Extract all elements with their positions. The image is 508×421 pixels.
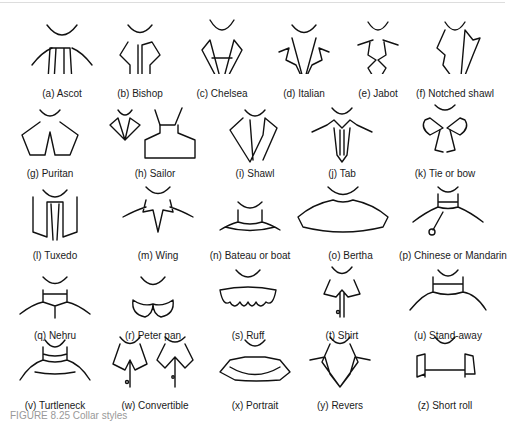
- collar-convertible: (w) Convertible: [105, 332, 205, 412]
- short-roll-illustration: [395, 332, 495, 396]
- collar-label: (p) Chinese or Mandarin: [398, 250, 508, 261]
- collar-shawl: (i) Shawl: [205, 100, 305, 180]
- collar-label: (z) Short roll: [395, 400, 495, 411]
- collar-label: (k) Tie or bow: [395, 168, 495, 179]
- collar-label: (y) Revers: [290, 400, 390, 411]
- collar-sailor: (h) Sailor: [100, 100, 210, 180]
- peter-pan-illustration: [103, 262, 203, 326]
- collar-label: (i) Shawl: [205, 168, 305, 179]
- collar-tab: (j) Tab: [292, 100, 392, 180]
- collar-revers: (y) Revers: [290, 332, 390, 412]
- collar-shirt: (t) Shirt: [292, 262, 392, 342]
- collar-bateau: (n) Bateau or boat: [200, 182, 300, 262]
- revers-illustration: [290, 332, 390, 396]
- figure-caption: FIGURE 8.25 Collar styles: [10, 410, 127, 421]
- collar-label: (n) Bateau or boat: [200, 250, 300, 261]
- collar-puritan: (g) Puritan: [0, 100, 100, 180]
- tie-or-bow-illustration: [395, 100, 495, 164]
- stand-away-illustration: [398, 262, 498, 326]
- puritan-illustration: [0, 100, 100, 164]
- tuxedo-illustration: [5, 182, 105, 246]
- turtleneck-illustration: [5, 332, 105, 396]
- convertible-illustration: [105, 332, 205, 396]
- collar-notched-shawl: (f) Notched shawl: [405, 10, 505, 90]
- tab-illustration: [292, 100, 392, 164]
- mandarin-illustration: [398, 182, 498, 246]
- collar-label: (m) Wing: [108, 250, 208, 261]
- collar-ruff: (s) Ruff: [198, 262, 298, 342]
- collar-peter-pan: (r) Peter pan: [103, 262, 203, 342]
- sailor-illustration: [100, 100, 200, 164]
- top-border: [0, 2, 505, 3]
- collar-tuxedo: (l) Tuxedo: [5, 182, 105, 262]
- collar-turtleneck: (v) Turtleneck: [5, 332, 105, 412]
- nehru-illustration: [5, 262, 105, 326]
- collar-nehru: (q) Nehru: [5, 262, 105, 342]
- notched-shawl-illustration: [405, 10, 505, 74]
- shawl-illustration: [205, 100, 305, 164]
- wing-illustration: [108, 182, 208, 246]
- collar-label: (l) Tuxedo: [5, 250, 105, 261]
- collar-label: (f) Notched shawl: [405, 88, 505, 99]
- collar-chinese-mandarin: (p) Chinese or Mandarin: [398, 182, 508, 262]
- collar-label: (j) Tab: [292, 168, 392, 179]
- collar-tie-or-bow: (k) Tie or bow: [395, 100, 495, 180]
- collar-label: (g) Puritan: [0, 168, 100, 179]
- shirt-illustration: [292, 262, 392, 326]
- collar-short-roll: (z) Short roll: [395, 332, 495, 412]
- collar-label: (h) Sailor: [100, 168, 210, 179]
- ruff-illustration: [198, 262, 298, 326]
- bateau-illustration: [200, 182, 300, 246]
- collar-label: (o) Bertha: [293, 250, 408, 261]
- collar-bertha: (o) Bertha: [293, 182, 408, 262]
- collar-wing: (m) Wing: [108, 182, 208, 262]
- bertha-illustration: [293, 182, 393, 246]
- collar-stand-away: (u) Stand-away: [398, 262, 498, 342]
